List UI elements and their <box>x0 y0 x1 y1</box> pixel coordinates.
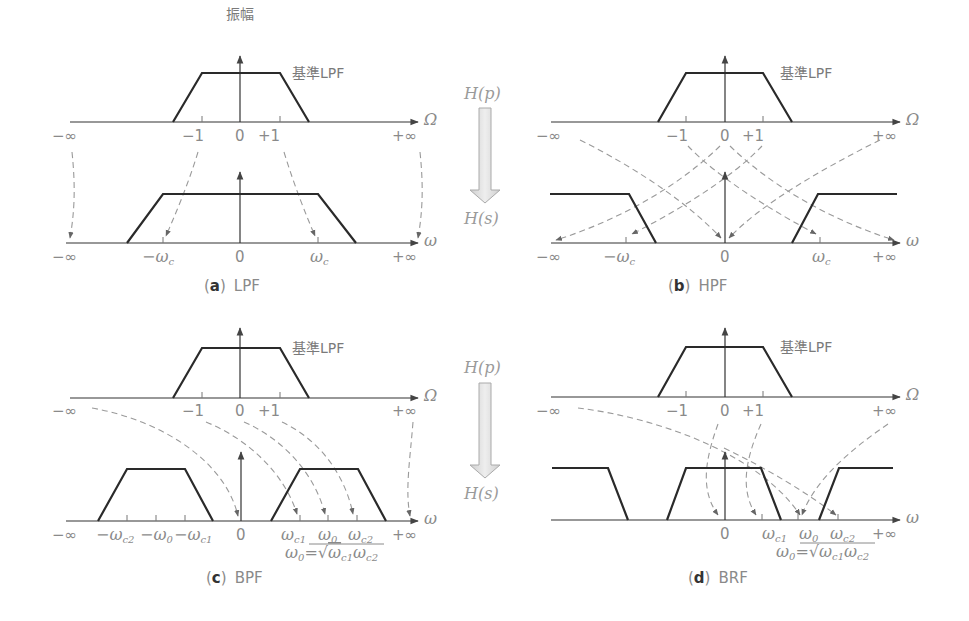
panel-c-mapping-arrows <box>92 408 413 516</box>
bpf-curve-positive <box>271 469 386 521</box>
filter-transformation-diagram: 振幅 基準LPF Ω −∞ −1 0 +1 +∞ <box>0 0 969 621</box>
hpf-curve-left <box>550 194 656 243</box>
brf-curve-middle <box>667 468 781 520</box>
hs-label: H(s) <box>463 209 499 228</box>
omega-label: ω <box>906 508 919 527</box>
label-minus-1: −1 <box>666 127 688 145</box>
panel-c-transformed-plot: ω −∞ −ωc2 −ω0 −ωc1 0 ωc1 ω0 ωc2 +∞ ω0=√ω… <box>52 452 437 563</box>
label-plus-inf: +∞ <box>392 402 417 420</box>
transform-arrow-top: H(p) H(s) <box>463 84 501 228</box>
label-zero: 0 <box>235 248 245 266</box>
capital-omega-label: Ω <box>423 110 437 129</box>
panel-b-reference-plot: 基準LPF Ω −∞ −1 0 +1 +∞ <box>536 56 919 145</box>
label-zero: 0 <box>720 127 730 145</box>
hs-label: H(s) <box>463 484 499 503</box>
panel-b-transformed-plot: ω −∞ −ωc 0 ωc +∞ <box>536 172 919 267</box>
down-arrow-icon <box>470 108 500 203</box>
panel-c-reference-plot: 基準LPF Ω −∞ −1 0 +1 +∞ <box>52 328 437 420</box>
omega-label: ω <box>424 509 437 528</box>
label-zero: 0 <box>720 248 730 266</box>
label-zero: 0 <box>720 402 730 420</box>
label-plus-1: +1 <box>258 127 280 145</box>
label-wc1: ωc1 <box>762 524 787 544</box>
caption-c: (c)BPF <box>206 569 263 587</box>
hp-label: H(p) <box>463 84 501 103</box>
label-minus-inf: −∞ <box>52 526 77 544</box>
label-minus-1: −1 <box>182 127 204 145</box>
transform-arrow-bottom: H(p) H(s) <box>463 358 501 503</box>
label-minus-wc: −ωc <box>603 247 635 267</box>
panel-d-brf: 基準LPF Ω −∞ −1 0 +1 +∞ ω 0 ωc1 <box>536 328 919 587</box>
label-minus-w0: −ω0 <box>140 525 173 545</box>
label-plus-inf: +∞ <box>392 127 417 145</box>
caption-a: (a)LPF <box>204 277 260 295</box>
reference-lpf-label: 基準LPF <box>292 65 344 81</box>
label-minus-inf: −∞ <box>536 127 561 145</box>
center-frequency-formula: ω0=√ωc1ωc2 <box>285 543 378 563</box>
panel-d-reference-plot: 基準LPF Ω −∞ −1 0 +1 +∞ <box>536 328 919 420</box>
amplitude-axis-label: 振幅 <box>226 6 254 22</box>
label-wc: ωc <box>310 247 329 267</box>
capital-omega-label: Ω <box>905 110 919 129</box>
omega-label: ω <box>906 231 919 250</box>
panel-a-lpf: 振幅 基準LPF Ω −∞ −1 0 +1 +∞ <box>52 6 437 295</box>
capital-omega-label: Ω <box>423 386 437 405</box>
label-minus-wc1: −ωc1 <box>174 525 212 545</box>
label-plus-inf: +∞ <box>392 248 417 266</box>
center-frequency-formula: ω0=√ωc1ωc2 <box>776 542 869 562</box>
bpf-curve-negative <box>98 469 213 521</box>
label-minus-inf: −∞ <box>52 402 77 420</box>
brf-curve-right <box>819 468 893 520</box>
label-zero: 0 <box>236 526 246 544</box>
label-plus-inf: +∞ <box>872 248 897 266</box>
panel-b-hpf: 基準LPF Ω −∞ −1 0 +1 +∞ ω −∞ −ωc 0 <box>536 56 919 295</box>
reference-lpf-label: 基準LPF <box>780 339 832 355</box>
panel-a-reference-plot: 振幅 基準LPF Ω −∞ −1 0 +1 +∞ <box>52 6 437 145</box>
label-minus-wc: −ωc <box>142 247 174 267</box>
panel-c-bpf: 基準LPF Ω −∞ −1 0 +1 +∞ ω −∞ <box>52 328 437 587</box>
down-arrow-icon <box>470 383 500 478</box>
capital-omega-label: Ω <box>905 385 919 404</box>
label-minus-inf: −∞ <box>536 248 561 266</box>
label-minus-1: −1 <box>666 402 688 420</box>
label-w0: ω0 <box>318 525 338 545</box>
label-minus-inf: −∞ <box>52 127 77 145</box>
omega-label: ω <box>424 231 437 250</box>
label-zero: 0 <box>235 402 245 420</box>
hpf-curve-right <box>792 194 897 243</box>
label-minus-1: −1 <box>182 402 204 420</box>
label-minus-inf: −∞ <box>536 402 561 420</box>
label-minus-inf: −∞ <box>52 248 77 266</box>
label-wc: ωc <box>812 247 831 267</box>
panel-d-mapping-arrows <box>578 408 888 515</box>
reference-lpf-label: 基準LPF <box>780 65 832 81</box>
label-plus-inf: +∞ <box>872 525 897 543</box>
hp-label: H(p) <box>463 358 501 377</box>
label-zero: 0 <box>235 127 245 145</box>
label-zero: 0 <box>720 525 730 543</box>
label-wc2: ωc2 <box>348 525 373 545</box>
caption-b: (b)HPF <box>668 277 727 295</box>
label-plus-inf: +∞ <box>392 526 417 544</box>
label-w0: ω0 <box>799 524 819 544</box>
label-plus-1: +1 <box>742 127 764 145</box>
reference-lpf-curve <box>173 348 309 398</box>
label-minus-wc2: −ωc2 <box>96 525 134 545</box>
panel-d-transformed-plot: ω 0 ωc1 ω0 ωc2 +∞ ω0=√ωc1ωc2 <box>551 452 919 562</box>
label-plus-inf: +∞ <box>872 402 897 420</box>
panel-a-transformed-plot: ω −∞ −ωc 0 ωc +∞ <box>52 172 437 267</box>
caption-d: (d)BRF <box>688 569 748 587</box>
brf-curve-left <box>552 468 628 520</box>
label-wc2: ωc2 <box>830 524 855 544</box>
lpf-curve <box>127 194 356 243</box>
reference-lpf-label: 基準LPF <box>292 340 344 356</box>
label-plus-1: +1 <box>258 402 280 420</box>
reference-lpf-curve <box>173 73 309 122</box>
label-wc1: ωc1 <box>281 525 306 545</box>
label-plus-1: +1 <box>742 402 764 420</box>
